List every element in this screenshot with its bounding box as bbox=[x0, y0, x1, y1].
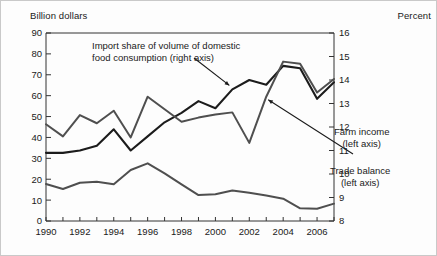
series-line-0 bbox=[46, 66, 334, 153]
left-axis-title: Billion dollars bbox=[30, 10, 87, 21]
y-tick-label-left: 70 bbox=[31, 69, 42, 80]
x-tick-label: 1996 bbox=[137, 226, 158, 237]
y-tick-label-right: 9 bbox=[339, 192, 344, 203]
x-tick-label: 2002 bbox=[239, 226, 260, 237]
series-line-2 bbox=[46, 163, 334, 208]
x-tick-label: 1994 bbox=[103, 226, 124, 237]
x-tick-label: 2004 bbox=[273, 226, 294, 237]
y-tick-label-left: 60 bbox=[31, 90, 42, 101]
arrow-import-share bbox=[194, 58, 229, 85]
y-tick-label-right: 15 bbox=[339, 51, 350, 62]
y-tick-label-left: 0 bbox=[37, 215, 42, 226]
series-line-1 bbox=[46, 62, 334, 143]
x-tick-label: 2000 bbox=[205, 226, 226, 237]
y-tick-label-right: 13 bbox=[339, 98, 350, 109]
y-tick-label-left: 30 bbox=[31, 153, 42, 164]
x-tick-label: 1992 bbox=[69, 226, 90, 237]
y-tick-label-left: 90 bbox=[31, 27, 42, 38]
y-tick-label-right: 16 bbox=[339, 27, 350, 38]
chart-figure: Billion dollars Percent Import share of … bbox=[0, 0, 437, 256]
axes-layer: 0102030405060708090891011121314151619901… bbox=[31, 27, 349, 237]
y-tick-label-left: 20 bbox=[31, 174, 42, 185]
plot-area: 0102030405060708090891011121314151619901… bbox=[46, 33, 334, 221]
right-axis-title: Percent bbox=[398, 10, 431, 21]
y-tick-label-left: 80 bbox=[31, 48, 42, 59]
y-tick-label-right: 14 bbox=[339, 74, 350, 85]
x-tick-label: 1998 bbox=[171, 226, 192, 237]
y-tick-label-right: 10 bbox=[339, 168, 350, 179]
y-tick-label-right: 8 bbox=[339, 215, 344, 226]
y-tick-label-left: 40 bbox=[31, 132, 42, 143]
x-tick-label: 2006 bbox=[306, 226, 327, 237]
y-tick-label-left: 10 bbox=[31, 195, 42, 206]
x-tick-label: 1990 bbox=[35, 226, 56, 237]
y-tick-label-right: 12 bbox=[339, 121, 350, 132]
series-layer bbox=[46, 62, 334, 209]
y-tick-label-left: 50 bbox=[31, 111, 42, 122]
